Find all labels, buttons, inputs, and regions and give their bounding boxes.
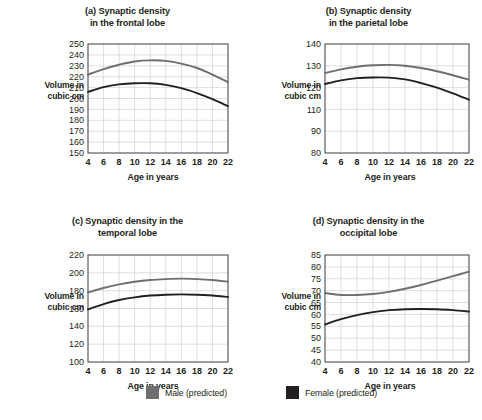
- panel-d-xtick: 14: [400, 366, 410, 376]
- panel-a-xtick: 18: [192, 157, 202, 167]
- panel-c-xtick: 14: [161, 366, 171, 376]
- panel-b-ytick: 110: [307, 105, 321, 115]
- panel-d-xtick: 12: [384, 366, 394, 376]
- synaptic-density-figure: (a) Synaptic density in the frontal lobe…: [0, 0, 482, 420]
- panel-a-ytick: 170: [69, 126, 84, 136]
- panel-a-ytick: 190: [69, 105, 84, 115]
- panel-a-ytick: 200: [69, 94, 84, 104]
- panel-d-ytick: 80: [311, 262, 321, 272]
- panel-b-xtick: 8: [354, 157, 359, 167]
- panel-d-xtick: 18: [432, 366, 442, 376]
- panel-a-xtick: 22: [223, 157, 233, 167]
- panel-d-ytick: 70: [311, 286, 321, 296]
- panel-a-ytick: 150: [69, 148, 84, 158]
- panel-c-xtick: 8: [117, 366, 122, 376]
- figure-legend: Male (predicted) Female (predicted): [0, 386, 482, 406]
- panel-a-xtick: 14: [161, 157, 171, 167]
- panel-c-ytick: 140: [69, 321, 84, 331]
- panel-c-xtick: 22: [223, 366, 233, 376]
- panel-b-ytick: 120: [306, 83, 321, 93]
- panel-b-xtick: 20: [448, 157, 458, 167]
- panel-d-ytick: 75: [311, 274, 321, 284]
- panel-b-ytick: 130: [306, 61, 321, 71]
- panel-a-ytick: 180: [69, 115, 84, 125]
- panel-d-ytick: 55: [311, 321, 321, 331]
- panel-d-ytick: 45: [311, 345, 321, 355]
- panel-c-xtick: 10: [130, 366, 140, 376]
- panel-c-xtick: 18: [192, 366, 202, 376]
- chart-panel-a: (a) Synaptic density in the frontal lobe…: [0, 0, 241, 210]
- panel-b-series-female: [325, 77, 469, 99]
- panel-b-xtick: 10: [368, 157, 378, 167]
- panel-d-xtick: 16: [416, 366, 426, 376]
- panel-a-ytick: 210: [69, 83, 84, 93]
- panel-d-xtick: 8: [354, 366, 359, 376]
- panel-b-xtick: 4: [322, 157, 327, 167]
- panel-d-xtick: 10: [368, 366, 378, 376]
- panel-b-xtick: 6: [338, 157, 343, 167]
- panel-c-ytick: 200: [69, 268, 84, 278]
- panel-b-ytick: 80: [311, 148, 321, 158]
- panel-a-xtick: 16: [176, 157, 186, 167]
- panel-b-ytick: 90: [311, 126, 321, 136]
- panel-a-ytick: 220: [69, 72, 84, 82]
- legend-label-male: Male (predicted): [165, 388, 227, 398]
- panel-a-series-male: [88, 60, 228, 82]
- panel-c-ytick: 160: [69, 304, 84, 314]
- panel-d-xtick: 4: [322, 366, 327, 376]
- panel-a-ytick: 240: [69, 50, 84, 60]
- panel-a-plot: 1501601701801902002102202302402504681012…: [0, 0, 241, 210]
- panel-c-ytick: 220: [69, 250, 84, 260]
- panel-c-xtick: 4: [85, 366, 90, 376]
- panel-c-ytick: 100: [69, 357, 84, 367]
- panel-b-xtick: 14: [400, 157, 410, 167]
- legend-label-female: Female (predicted): [305, 388, 377, 398]
- panel-b-ytick: 140: [306, 39, 321, 49]
- panel-a-xtick: 8: [117, 157, 122, 167]
- panel-d-ytick: 85: [311, 250, 321, 260]
- panel-b-xtick: 12: [384, 157, 394, 167]
- panel-a-series-female: [88, 83, 228, 106]
- panel-c-xtick: 12: [145, 366, 155, 376]
- panel-c-xtick: 16: [176, 366, 186, 376]
- panel-a-ytick: 160: [69, 137, 84, 147]
- panel-d-ytick: 40: [311, 357, 321, 367]
- panel-a-xtick: 4: [85, 157, 90, 167]
- panel-c-series-female: [88, 294, 228, 309]
- panel-d-ytick: 50: [311, 333, 321, 343]
- panel-d-xtick: 22: [464, 366, 474, 376]
- panel-a-xtick: 6: [101, 157, 106, 167]
- panel-d-xtick: 20: [448, 366, 458, 376]
- panel-d-ytick: 60: [311, 310, 321, 320]
- female-swatch: [286, 386, 299, 399]
- panel-a-xtick: 10: [130, 157, 140, 167]
- panel-c-ytick: 120: [69, 339, 84, 349]
- chart-panel-b: (b) Synaptic density in the parietal lob…: [241, 0, 482, 210]
- male-swatch: [146, 386, 159, 399]
- panel-a-ytick: 230: [69, 61, 84, 71]
- panel-d-ytick: 65: [311, 298, 321, 308]
- legend-item-female: Female (predicted): [286, 386, 377, 399]
- panel-c-xtick: 6: [101, 366, 106, 376]
- panel-c-xtick: 20: [207, 366, 217, 376]
- legend-item-male: Male (predicted): [146, 386, 227, 399]
- panel-c-ytick: 180: [69, 286, 84, 296]
- panel-d-series-male: [325, 272, 469, 295]
- panel-b-xtick: 18: [432, 157, 442, 167]
- panel-a-xtick: 12: [145, 157, 155, 167]
- panel-a-xtick: 20: [207, 157, 217, 167]
- panel-b-plot: 809011012013014046810121416182022: [241, 0, 482, 210]
- panel-b-xtick: 22: [464, 157, 474, 167]
- panel-a-ytick: 250: [69, 39, 84, 49]
- panel-b-xtick: 16: [416, 157, 426, 167]
- panel-d-series-female: [325, 309, 469, 324]
- panel-d-xtick: 6: [338, 366, 343, 376]
